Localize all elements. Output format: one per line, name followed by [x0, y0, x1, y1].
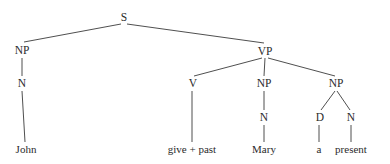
tree-node-layer: SNPVPNVNPNPNDN: [15, 11, 356, 123]
tree-node-n-subj: N: [18, 77, 27, 89]
tree-node-s: S: [121, 11, 127, 23]
edge-npdobj-n: [337, 91, 350, 110]
tree-leaf-leaf-mary: Mary: [252, 143, 276, 155]
tree-node-n-iobj: N: [260, 111, 269, 123]
edge-vp-np-iobj: [264, 58, 265, 76]
tree-node-np-subj: NP: [15, 44, 30, 56]
syntax-tree-figure: SNPVPNVNPNPNDN Johngive + pastMaryaprese…: [0, 0, 390, 164]
syntax-tree-canvas: SNPVPNVNPNPNDN Johngive + pastMaryaprese…: [0, 0, 390, 164]
edge-vp-np-dobj: [268, 58, 335, 76]
edge-nsubj-john: [22, 91, 25, 142]
tree-node-v: V: [189, 77, 198, 89]
tree-leaf-leaf-present: present: [335, 143, 367, 155]
tree-leaf-leaf-give: give + past: [168, 143, 216, 155]
tree-node-d-dobj: D: [316, 111, 324, 123]
tree-node-n-dobj: N: [347, 111, 356, 123]
edge-s-np: [24, 24, 121, 42]
tree-edge-layer: [22, 24, 351, 142]
edge-s-vp: [127, 24, 264, 43]
tree-leaf-leaf-john: John: [16, 143, 37, 155]
tree-leaf-leaf-a: a: [317, 143, 322, 155]
edge-vp-v: [194, 58, 262, 76]
tree-node-vp: VP: [258, 45, 273, 57]
tree-node-np-iobj: NP: [257, 77, 272, 89]
tree-node-np-dobj: NP: [329, 77, 344, 89]
edge-npdobj-d: [321, 91, 335, 110]
tree-leaf-layer: Johngive + pastMaryapresent: [16, 143, 367, 155]
